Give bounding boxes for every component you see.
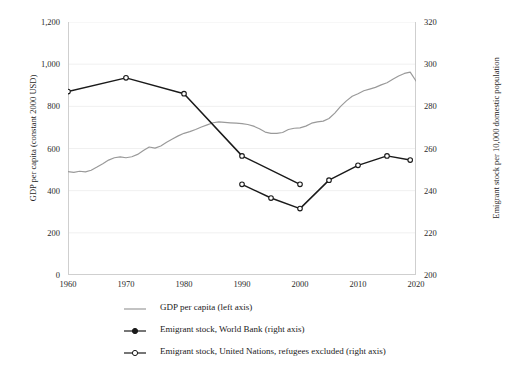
- legend-label-un: Emigrant stock, United Nations, refugees…: [160, 346, 386, 356]
- right-tick-300: 300: [424, 59, 464, 69]
- series-line-2: [242, 156, 410, 209]
- chart-figure: GDP per capita (constant 2000 USD) Emigr…: [0, 0, 518, 371]
- right-tick-240: 240: [424, 186, 464, 196]
- legend-symbol-line-open-marker: [120, 345, 160, 357]
- series-2-marker-1990: [240, 182, 245, 187]
- left-tick-1200: 1,200: [20, 17, 60, 27]
- series-2-marker-2015: [385, 154, 390, 159]
- right-tick-320: 320: [424, 17, 464, 27]
- series-1-marker-1970: [124, 76, 129, 81]
- legend-label-worldbank: Emigrant stock, World Bank (right axis): [160, 324, 305, 334]
- series-2-marker-2019: [408, 158, 413, 163]
- series-2-marker-1995: [269, 196, 274, 201]
- x-tick-2020: 2020: [396, 279, 436, 289]
- chart-legend: GDP per capita (left axis) Emigrant stoc…: [0, 296, 518, 362]
- series-1-marker-1960: [68, 89, 70, 94]
- series-1-marker-2000: [298, 182, 303, 187]
- right-tick-260: 260: [424, 144, 464, 154]
- left-tick-800: 800: [20, 101, 60, 111]
- x-tick-2000: 2000: [280, 279, 320, 289]
- series-2-marker-2000: [298, 206, 303, 211]
- legend-item-un: Emigrant stock, United Nations, refugees…: [0, 340, 518, 362]
- legend-symbol-line-filled-marker: [120, 323, 160, 335]
- left-tick-600: 600: [20, 144, 60, 154]
- x-tick-1970: 1970: [106, 279, 146, 289]
- series-2-marker-2005: [327, 178, 332, 183]
- left-tick-200: 200: [20, 228, 60, 238]
- left-tick-400: 400: [20, 186, 60, 196]
- right-axis-title: Emigrant stock per 10,000 domestic popul…: [491, 38, 501, 238]
- legend-item-gdp: GDP per capita (left axis): [0, 296, 518, 318]
- series-1-marker-1990: [240, 154, 245, 159]
- legend-symbol-line-plain: [120, 301, 160, 313]
- plot-svg: [68, 22, 416, 275]
- legend-label-gdp: GDP per capita (left axis): [160, 302, 252, 312]
- series-1-marker-1980: [182, 91, 187, 96]
- right-tick-280: 280: [424, 101, 464, 111]
- left-tick-1000: 1,000: [20, 59, 60, 69]
- right-tick-220: 220: [424, 228, 464, 238]
- plot-area: [68, 22, 416, 275]
- legend-item-worldbank: Emigrant stock, World Bank (right axis): [0, 318, 518, 340]
- x-tick-1980: 1980: [164, 279, 204, 289]
- series-2-marker-2010: [356, 163, 361, 168]
- left-axis-title: GDP per capita (constant 2000 USD): [28, 43, 38, 233]
- x-tick-2010: 2010: [338, 279, 378, 289]
- x-tick-1960: 1960: [48, 279, 88, 289]
- x-tick-1990: 1990: [222, 279, 262, 289]
